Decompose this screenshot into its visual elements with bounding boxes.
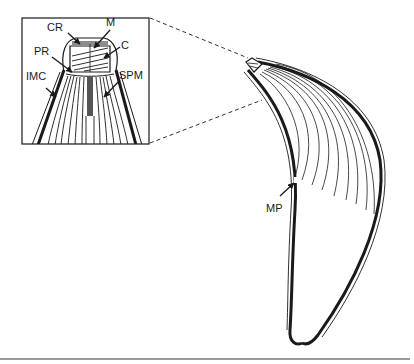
label-m: M	[106, 16, 115, 28]
label-imc: IMC	[26, 70, 46, 82]
label-cr: CR	[47, 21, 63, 33]
bottom-rule	[0, 358, 410, 360]
label-spm: SPM	[119, 69, 143, 81]
diagram-canvas: CR M C PR IMC SPM MP	[0, 0, 414, 364]
label-c: C	[121, 39, 129, 51]
label-mp: MP	[266, 202, 283, 214]
crescent-structure	[244, 58, 385, 344]
label-pr: PR	[34, 45, 49, 57]
inset-panel: CR M C PR IMC SPM	[22, 16, 149, 145]
projection-lines	[150, 18, 262, 143]
